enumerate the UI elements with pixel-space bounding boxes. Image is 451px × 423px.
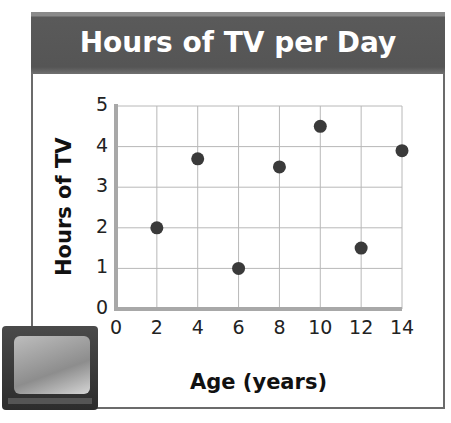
- x-tick-label: 10: [300, 316, 340, 338]
- data-point: [150, 221, 163, 234]
- television-icon: [2, 326, 98, 410]
- data-point: [355, 242, 368, 255]
- x-tick-label: 12: [341, 316, 381, 338]
- data-point: [232, 262, 245, 275]
- data-point: [273, 160, 286, 173]
- y-tick-label: 5: [88, 93, 108, 115]
- y-tick-label: 4: [88, 134, 108, 156]
- x-tick-label: 6: [219, 316, 259, 338]
- y-tick-label: 1: [88, 255, 108, 277]
- y-tick-label: 3: [88, 174, 108, 196]
- tv-screen: [14, 336, 90, 394]
- tv-control-panel: [8, 398, 92, 404]
- x-tick-label: 8: [259, 316, 299, 338]
- x-axis-label: Age (years): [190, 370, 327, 394]
- x-tick-label: 2: [137, 316, 177, 338]
- y-tick-label: 2: [88, 215, 108, 237]
- y-axis-label: Hours of TV: [52, 137, 76, 276]
- y-tick-label: 0: [88, 296, 108, 318]
- data-point: [314, 120, 327, 133]
- x-tick-label: 14: [382, 316, 422, 338]
- x-tick-label: 0: [96, 316, 136, 338]
- x-tick-label: 4: [178, 316, 218, 338]
- data-point: [191, 152, 204, 165]
- data-point: [396, 144, 409, 157]
